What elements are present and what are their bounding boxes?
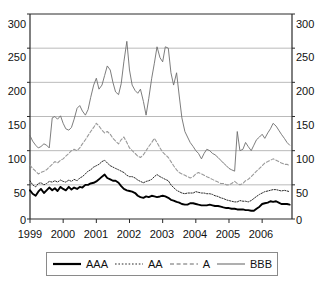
chart-container: 300 250 200 150 100 50 0 300 250 200 150…	[0, 0, 324, 283]
legend-swatch-aaa	[52, 259, 82, 269]
gridlines	[30, 48, 292, 185]
legend-label-bbb: BBB	[250, 259, 272, 270]
legend-swatch-a	[169, 259, 199, 269]
legend: AAA AA A BBB	[46, 252, 278, 276]
legend-swatch-bbb	[216, 259, 246, 269]
legend-entry-aaa: AAA	[52, 259, 108, 270]
series-line-a	[30, 123, 290, 185]
data-series-group	[30, 41, 290, 210]
legend-label-aaa: AAA	[86, 259, 108, 270]
series-line-bbb	[30, 41, 290, 171]
legend-entry-bbb: BBB	[216, 259, 272, 270]
plot-area	[0, 0, 324, 283]
legend-swatch-aa	[114, 259, 144, 269]
legend-entry-a: A	[169, 259, 210, 270]
axis-ticks	[27, 14, 295, 223]
legend-label-a: A	[203, 259, 210, 270]
legend-label-aa: AA	[148, 259, 163, 270]
legend-entry-aa: AA	[114, 259, 163, 270]
